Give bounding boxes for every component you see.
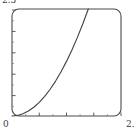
y-axis-max-label: 2.5 (2, 0, 16, 5)
plot-container: 2.5 0 2. (0, 0, 138, 136)
y-axis-min-label: 0 (3, 120, 9, 129)
plot-frame-svg (0, 0, 138, 136)
x-axis-max-label: 2. (126, 120, 135, 129)
